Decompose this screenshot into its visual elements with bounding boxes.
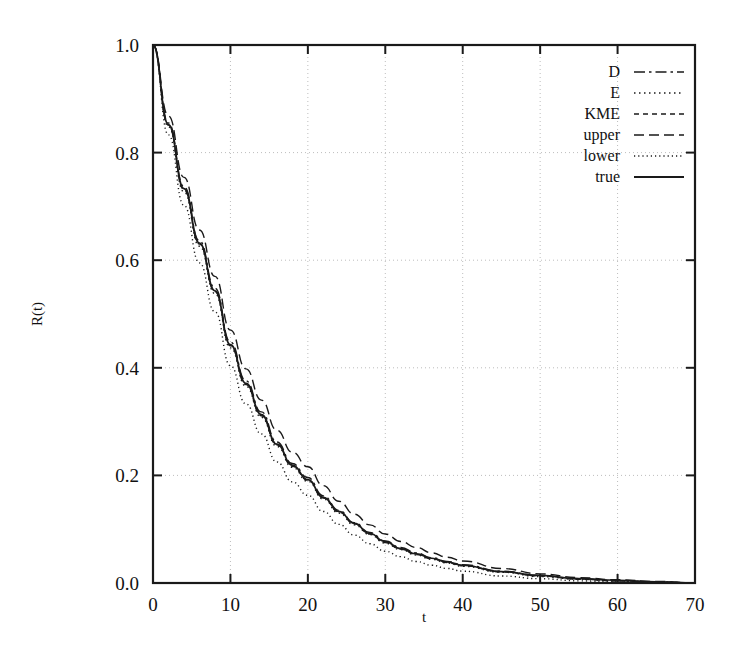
x-tick-label: 0	[148, 594, 158, 615]
y-tick-label: 0.4	[115, 358, 139, 379]
y-tick-label: 0.2	[115, 465, 139, 486]
legend-label-upper: upper	[584, 126, 621, 144]
y-tick-label: 1.0	[115, 35, 139, 56]
legend-label-kme: KME	[584, 105, 620, 122]
x-tick-label: 60	[608, 594, 627, 615]
x-tick-label: 40	[453, 594, 472, 615]
y-axis-title: R(t)	[29, 302, 46, 326]
legend-label-true: true	[595, 168, 620, 185]
legend-label-lower: lower	[584, 147, 621, 164]
legend-label-d: D	[608, 63, 620, 80]
legend-label-e: E	[610, 84, 620, 101]
y-tick-label: 0.6	[115, 250, 139, 271]
x-tick-label: 70	[686, 594, 705, 615]
chart-background	[0, 0, 743, 645]
x-tick-label: 10	[221, 594, 240, 615]
y-tick-label: 0.0	[115, 573, 139, 594]
x-tick-label: 20	[298, 594, 317, 615]
reliability-chart-figure: 0.00.20.40.60.81.0 010203040506070 t R(t…	[0, 0, 743, 645]
x-tick-label: 50	[531, 594, 550, 615]
x-tick-label: 30	[376, 594, 395, 615]
y-tick-label: 0.8	[115, 143, 139, 164]
chart-canvas: 0.00.20.40.60.81.0 010203040506070 t R(t…	[0, 0, 743, 645]
